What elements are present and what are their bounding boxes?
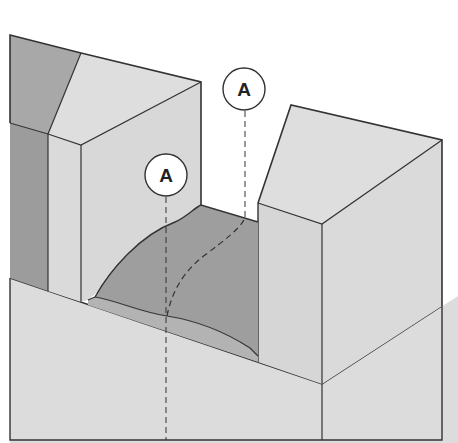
label-a-front: A [159,165,173,186]
section-marker-a-back: A [223,68,265,220]
section-diagram: A A [0,0,458,443]
label-a-back: A [237,79,251,100]
diagram-canvas: A A [0,0,458,443]
